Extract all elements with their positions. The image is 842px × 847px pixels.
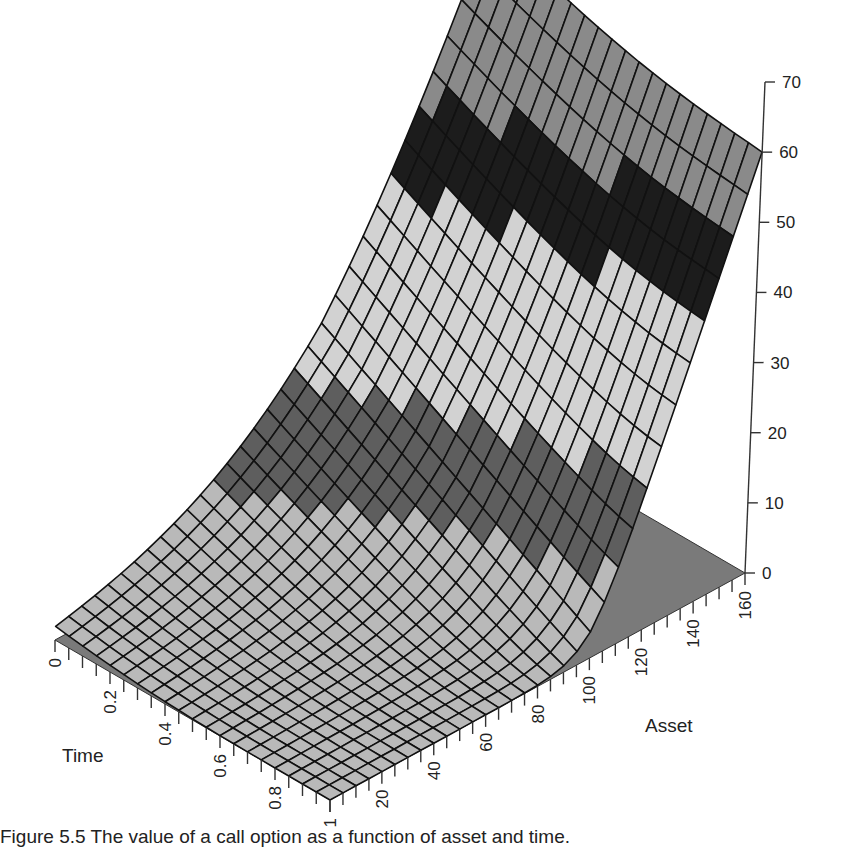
option-value-surface	[56, 0, 763, 800]
svg-text:160: 160	[736, 591, 755, 619]
svg-text:60: 60	[477, 733, 496, 752]
time-axis-title: Time	[62, 745, 104, 766]
svg-text:10: 10	[765, 494, 784, 513]
svg-text:0.6: 0.6	[211, 754, 230, 778]
svg-text:70: 70	[782, 73, 801, 92]
svg-text:30: 30	[771, 354, 790, 373]
svg-text:20: 20	[768, 424, 787, 443]
svg-text:120: 120	[632, 648, 651, 676]
svg-text:0: 0	[46, 658, 65, 667]
svg-text:80: 80	[529, 705, 548, 724]
surface-plot: 00.20.40.60.81 20406080100120140160 0102…	[0, 0, 842, 847]
svg-text:0: 0	[762, 564, 771, 583]
svg-text:0.2: 0.2	[101, 690, 120, 714]
svg-text:140: 140	[684, 619, 703, 647]
svg-text:60: 60	[779, 143, 798, 162]
svg-text:50: 50	[776, 213, 795, 232]
svg-text:0.4: 0.4	[156, 722, 175, 746]
asset-axis-title: Asset	[645, 715, 693, 736]
figure-caption: Figure 5.5 The value of a call option as…	[0, 826, 570, 847]
svg-text:20: 20	[373, 790, 392, 809]
svg-text:100: 100	[580, 676, 599, 704]
svg-text:40: 40	[425, 761, 444, 780]
svg-text:0.8: 0.8	[266, 786, 285, 810]
svg-text:40: 40	[773, 283, 792, 302]
